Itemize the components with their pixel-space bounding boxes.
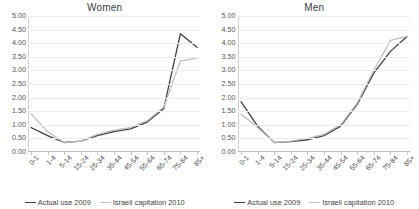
legend-line-icon [100,202,111,203]
y-tick-label: 0.00 [12,148,26,155]
dual-line-chart-figure: Women 0.000.501.001.502.002.503.003.504.… [0,0,419,209]
x-tick-label: 25-34 [89,154,107,172]
x-tick-label: 75-84 [381,154,399,172]
chart-panel-men: Men 0.000.501.001.502.002.503.003.504.00… [210,0,419,209]
y-tick-label: 4.00 [12,40,26,47]
y-tick-label: 1.50 [12,108,26,115]
x-tick-label: 15-24 [282,154,300,172]
x-tick-label: 35-44 [315,154,333,172]
legend-entry[interactable]: Israeli capitation 2010 [100,198,185,207]
y-tick-label: 2.00 [12,94,26,101]
legend-label: Israeli capitation 2010 [113,198,185,207]
grid-line [238,16,410,17]
grid-line [28,138,200,139]
y-tick-label: 0.50 [12,135,26,142]
grid-line [238,98,410,99]
x-tick-label: 45-54 [122,154,140,172]
x-tick-label: 0-1 [237,154,249,166]
legend-line-icon [234,202,245,203]
chart-title-women: Women [0,2,210,13]
x-tick-label: 0-1 [28,154,40,166]
grid-line [238,111,410,112]
y-tick-label: 3.00 [222,67,236,74]
x-tick-label: 25-34 [298,154,316,172]
grid-line [238,138,410,139]
grid-line [238,57,410,58]
x-axis-labels-women: 0-11-45-1415-2425-3435-4445-5455-6465-74… [28,154,200,190]
legend-label: Israeli capitation 2010 [322,198,394,207]
x-tick-label: 75-84 [172,154,190,172]
grid-line [28,43,200,44]
x-tick-label: 85+ [193,154,206,167]
grid-line [238,125,410,126]
chart-panel-women: Women 0.000.501.001.502.002.503.003.504.… [0,0,210,209]
y-tick-label: 2.50 [12,80,26,87]
x-tick-label: 65-74 [365,154,383,172]
chart-title-men: Men [210,2,419,13]
x-tick-label: 35-44 [105,154,123,172]
legend-line-icon [309,202,320,203]
x-tick-label: 55-64 [139,154,157,172]
series-line [31,34,197,143]
grid-line [28,125,200,126]
series-line [241,36,407,142]
y-tick-label: 0.50 [222,135,236,142]
y-tick-label: 5.00 [12,12,26,19]
legend-women: Actual use 2009Israeli capitation 2010 [0,198,210,207]
grid-line [28,16,200,17]
y-tick-label: 4.50 [12,26,26,33]
grid-line [28,111,200,112]
legend-men: Actual use 2009Israeli capitation 2010 [210,198,419,207]
y-tick-label: 5.00 [222,12,236,19]
grid-line [28,84,200,85]
plot-area-women: 0.000.501.001.502.002.503.003.504.004.50… [0,16,210,164]
plot-canvas-women [28,16,200,152]
grid-line [238,43,410,44]
legend-entry[interactable]: Actual use 2009 [234,198,300,207]
y-tick-label: 1.00 [12,121,26,128]
y-tick-label: 3.50 [12,53,26,60]
x-tick-label: 5-14 [58,154,73,169]
x-tick-label: 1-4 [254,154,266,166]
grid-line [238,70,410,71]
y-tick-label: 4.50 [222,26,236,33]
x-tick-label: 65-74 [155,154,173,172]
grid-line [28,57,200,58]
y-tick-label: 4.00 [222,40,236,47]
legend-line-icon [25,202,36,203]
legend-label: Actual use 2009 [247,198,300,207]
legend-entry[interactable]: Actual use 2009 [25,198,91,207]
x-tick-label: 1-4 [44,154,56,166]
y-tick-label: 3.50 [222,53,236,60]
legend-label: Actual use 2009 [38,198,91,207]
grid-line [28,98,200,99]
y-tick-label: 2.50 [222,80,236,87]
y-tick-label: 1.00 [222,121,236,128]
x-tick-label: 55-64 [348,154,366,172]
series-line [241,36,407,142]
x-tick-label: 15-24 [72,154,90,172]
grid-line [28,70,200,71]
y-tick-label: 2.00 [222,94,236,101]
y-axis-labels-men: 0.000.501.001.502.002.503.003.504.004.50… [212,16,236,152]
y-axis-labels-women: 0.000.501.001.502.002.503.003.504.004.50… [2,16,26,152]
legend-entry[interactable]: Israeli capitation 2010 [309,198,394,207]
grid-line [238,30,410,31]
x-tick-label: 45-54 [331,154,349,172]
grid-line [28,30,200,31]
x-tick-label: 85+ [402,154,415,167]
y-tick-label: 3.00 [12,67,26,74]
grid-line [238,84,410,85]
plot-area-men: 0.000.501.001.502.002.503.003.504.004.50… [210,16,419,164]
y-tick-label: 1.50 [222,108,236,115]
y-tick-label: 0.00 [222,148,236,155]
x-axis-labels-men: 0-11-45-1415-2425-3435-4445-5455-6465-74… [238,154,410,190]
plot-canvas-men [238,16,410,152]
